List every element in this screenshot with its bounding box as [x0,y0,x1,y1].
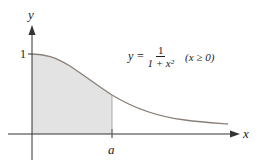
equation-condition: (x ≥ 0) [185,51,214,63]
plot-canvas [0,0,266,166]
x-marker-label: a [108,143,115,156]
y-tick-label: 1 [20,48,26,60]
equation-fraction: 1 1 + x² [147,44,174,69]
x-axis-arrow-icon [230,131,240,138]
equation-lhs: y = [128,49,144,64]
equation-numerator: 1 [156,44,166,57]
equation-denominator: 1 + x² [147,57,174,69]
x-axis-label: x [243,127,249,140]
equation: y = 1 1 + x² (x ≥ 0) [128,44,214,69]
y-axis-label: y [28,8,34,21]
figure: y x 1 a y = 1 1 + x² (x ≥ 0) [0,0,266,166]
y-axis-arrow-icon [29,25,36,35]
shaded-region [32,54,112,134]
